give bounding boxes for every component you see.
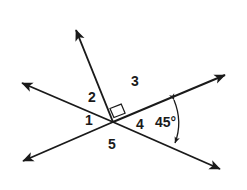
- angle-label-3: 3: [131, 74, 139, 88]
- angle-label-4: 4: [136, 117, 144, 131]
- line-vertex-to-lower-left: [23, 122, 113, 161]
- right-angle-marker-icon: [110, 104, 125, 118]
- geometry-figure: 1 2 3 4 5 45°: [0, 0, 247, 190]
- angle-label-2: 2: [88, 90, 96, 104]
- angle-measure-45-degrees: 45°: [155, 115, 176, 129]
- angle-label-5: 5: [108, 137, 116, 151]
- geometry-canvas: [0, 0, 247, 190]
- angle-label-1: 1: [85, 113, 93, 127]
